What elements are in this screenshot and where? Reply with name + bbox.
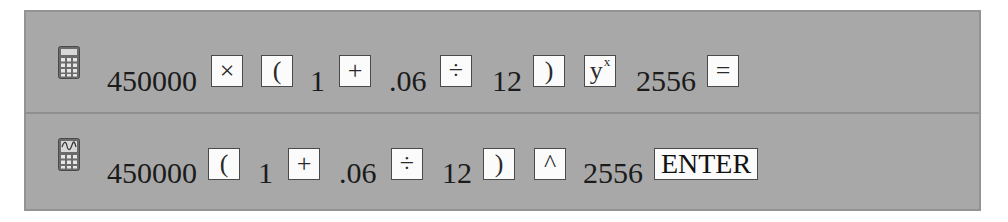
- open-paren-label: (: [273, 56, 282, 86]
- power-key[interactable]: yx: [584, 55, 616, 87]
- divide-key[interactable]: ÷: [391, 148, 423, 180]
- periods-value: 2556: [636, 66, 696, 96]
- graphing-calculator-row: 450000 ( 1 + .06 ÷ 12 ) ^ 2556 ENTER: [26, 114, 979, 214]
- plus-label: +: [348, 56, 363, 86]
- rate-value: .06: [339, 158, 377, 188]
- power-base-label: y: [590, 56, 603, 86]
- periods-value: 2556: [583, 158, 643, 188]
- rate-value: .06: [389, 66, 427, 96]
- caret-key[interactable]: ^: [534, 148, 566, 180]
- plus-label: +: [297, 149, 312, 179]
- calculator-icon: [58, 46, 80, 83]
- power-exponent-label: x: [604, 54, 611, 70]
- equals-label: =: [716, 56, 731, 86]
- divide-label: ÷: [449, 56, 463, 86]
- keystroke-panel: 450000 × ( 1 + .06 ÷ 12 ) yx 2556 =: [24, 10, 981, 211]
- divide-label: ÷: [400, 149, 414, 179]
- close-paren-label: ): [495, 149, 504, 179]
- months-value: 12: [492, 66, 522, 96]
- multiply-key[interactable]: ×: [211, 55, 243, 87]
- caret-label: ^: [544, 149, 556, 179]
- enter-key[interactable]: ENTER: [654, 148, 758, 180]
- plus-key[interactable]: +: [288, 148, 320, 180]
- principal-value: 450000: [107, 66, 197, 96]
- multiply-label: ×: [220, 56, 235, 86]
- close-paren-key[interactable]: ): [533, 55, 565, 87]
- open-paren-key[interactable]: (: [261, 55, 293, 87]
- months-value: 12: [442, 158, 472, 188]
- graphing-calculator-icon: [58, 138, 80, 175]
- plus-key[interactable]: +: [339, 55, 371, 87]
- equals-key[interactable]: =: [707, 55, 739, 87]
- close-paren-key[interactable]: ): [483, 148, 515, 180]
- open-paren-key[interactable]: (: [208, 148, 240, 180]
- one-value: 1: [258, 158, 273, 188]
- divide-key[interactable]: ÷: [440, 55, 472, 87]
- scientific-calculator-row: 450000 × ( 1 + .06 ÷ 12 ) yx 2556 =: [26, 12, 979, 112]
- open-paren-label: (: [220, 149, 229, 179]
- principal-value: 450000: [107, 158, 197, 188]
- enter-label: ENTER: [661, 148, 751, 180]
- close-paren-label: ): [545, 56, 554, 86]
- one-value: 1: [310, 66, 325, 96]
